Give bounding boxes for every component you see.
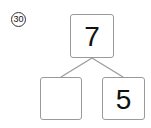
bottom-right-number-box: 5 xyxy=(102,77,145,120)
blank-answer-box[interactable] xyxy=(40,77,82,120)
top-number-box: 7 xyxy=(70,14,114,58)
